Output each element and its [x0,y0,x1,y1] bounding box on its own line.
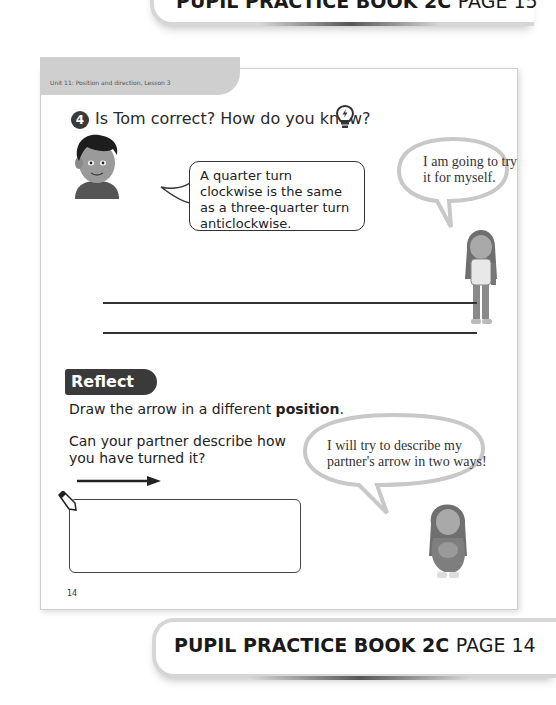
bottom-banner-page: PAGE 14 [456,634,536,656]
instruction-prefix: Draw the arrow in a different [69,401,276,417]
question-number-badge: 4 [71,111,89,129]
sitting-girl-icon [423,494,473,584]
girl-thought-text-2: I will try to describe my partner's arro… [327,438,487,470]
bottom-banner-title: PUPIL PRACTICE BOOK 2C PAGE 14 [174,634,536,656]
top-banner-shadow [260,22,440,26]
lightbulb-icon [336,105,354,129]
top-banner-book: PUPIL PRACTICE BOOK 2C [176,0,451,12]
page-number: 14 [67,589,77,598]
girl-character-icon [461,219,501,329]
top-banner-title: PUPIL PRACTICE BOOK 2C PAGE 15 [176,0,538,12]
answer-line-2[interactable] [103,332,477,334]
unit-label: Unit 11: Position and direction, Lesson … [50,79,171,86]
tom-speech-bubble: A quarter turn clockwise is the same as … [189,161,365,231]
speech-tail [159,179,193,209]
unit-tab: Unit 11: Position and direction, Lesson … [40,57,240,95]
question-text: Is Tom correct? How do you know? [95,109,371,128]
top-banner-page: PAGE 15 [458,0,538,12]
drawing-area[interactable] [69,499,301,573]
answer-line-1[interactable] [103,302,477,304]
workbook-page: Unit 11: Position and direction, Lesson … [40,68,518,610]
pencil-icon [57,491,77,511]
bottom-banner-shadow [250,676,470,680]
reflect-heading: Reflect [65,369,157,395]
bottom-banner-book: PUPIL PRACTICE BOOK 2C [174,634,449,656]
girl-thought-text: I am going to try it for myself. [423,154,523,186]
tom-character-icon [67,129,127,199]
right-arrow-icon [77,475,163,487]
bottom-page-banner: PUPIL PRACTICE BOOK 2C PAGE 14 [152,618,556,678]
reflect-question: Can your partner describe how you have t… [69,433,309,467]
